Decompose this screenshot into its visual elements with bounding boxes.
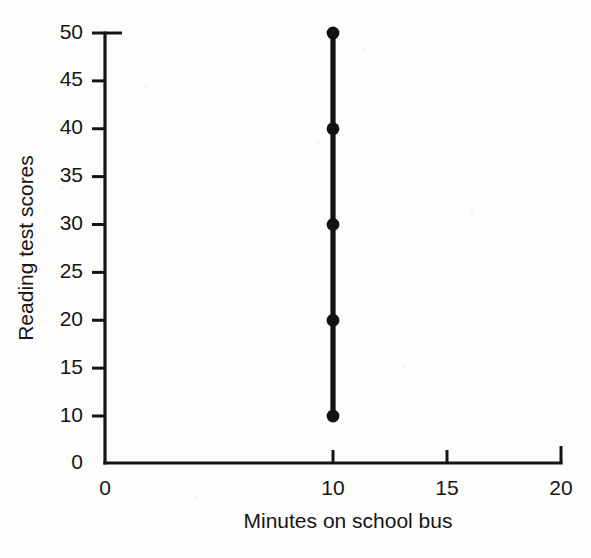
data-point-marker	[327, 314, 340, 327]
data-point-marker	[327, 410, 340, 423]
scan-speckle-texture	[61, 48, 557, 499]
y-axis-tick-label: 15	[60, 355, 83, 378]
data-series-group	[327, 27, 340, 423]
y-axis-tick-label: 40	[60, 115, 83, 138]
y-axis-tick-label: 30	[60, 211, 83, 234]
y-axis-tick-label: 25	[60, 259, 83, 282]
axes-group: 01015202530354045500101520	[60, 20, 573, 500]
y-axis-tick-label: 0	[71, 450, 83, 473]
y-axis-tick-label: 35	[60, 163, 83, 186]
data-point-marker	[327, 27, 340, 40]
y-axis-tick-label: 45	[60, 67, 83, 90]
x-axis-tick-label: 20	[549, 476, 572, 499]
x-axis-tick-label: 15	[435, 476, 458, 499]
y-axis-title: Reading test scores	[14, 155, 37, 341]
x-axis-tick-label: 10	[321, 476, 344, 499]
y-axis-tick-label: 50	[60, 20, 83, 43]
x-axis-tick-label: 0	[99, 476, 111, 499]
y-axis-tick-label: 20	[60, 307, 83, 330]
data-point-marker	[327, 122, 340, 135]
data-point-marker	[327, 218, 340, 231]
scatter-plot: 01015202530354045500101520 Minutes on sc…	[0, 0, 591, 558]
chart-figure: 01015202530354045500101520 Minutes on sc…	[0, 0, 591, 558]
x-axis-title: Minutes on school bus	[244, 509, 453, 532]
y-axis-tick-label: 10	[60, 403, 83, 426]
